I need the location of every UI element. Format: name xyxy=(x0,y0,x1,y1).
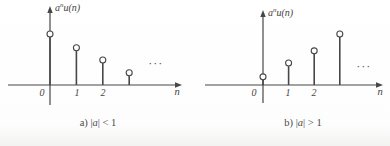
stem-marker xyxy=(311,48,317,54)
stem-marker xyxy=(126,70,132,76)
tick-b-1: 1 xyxy=(286,88,291,98)
tick-b-0: 0 xyxy=(252,88,257,98)
tick-b-2: 2 xyxy=(312,88,317,98)
caption-a: a) |a| < 1 xyxy=(80,118,117,129)
stem-marker xyxy=(286,60,292,66)
stem-marker xyxy=(73,45,79,51)
x-axis-label-a: n xyxy=(174,87,179,98)
caption-b: b) |a| > 1 xyxy=(284,118,321,129)
tick-a-0: 0 xyxy=(40,88,45,98)
stem-plots-svg xyxy=(0,0,390,146)
tick-a-1: 1 xyxy=(75,88,80,98)
stem-marker xyxy=(47,31,53,37)
y-axis-arrow xyxy=(260,10,265,17)
x-axis-label-b: n xyxy=(377,87,382,98)
figure-canvas: anu(n) 0 1 2 n ··· a) |a| < 1 anu(n) 0 1… xyxy=(0,0,390,146)
tick-a-2: 2 xyxy=(101,88,106,98)
stem-marker xyxy=(100,57,106,63)
stem-marker xyxy=(337,31,343,37)
stem-marker xyxy=(260,74,266,80)
y-axis-label-b: anu(n) xyxy=(268,8,293,18)
ellipsis-b: ··· xyxy=(357,61,372,72)
ellipsis-a: ··· xyxy=(149,58,164,69)
y-axis-label-a: anu(n) xyxy=(55,3,80,13)
y-axis-arrow xyxy=(47,6,52,13)
